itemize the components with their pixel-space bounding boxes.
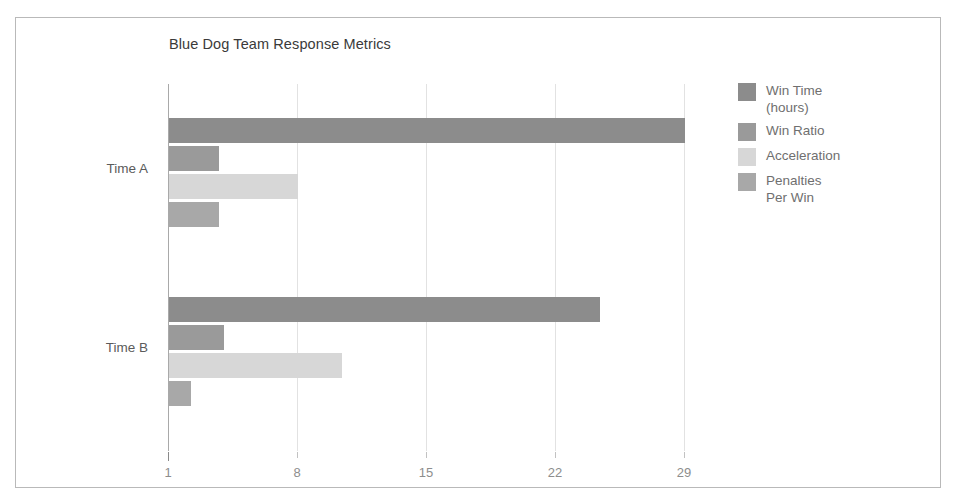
category-label-time-a: Time A	[48, 161, 148, 176]
bar-time-b-series-3	[169, 381, 191, 406]
bar-time-a-series-0	[169, 118, 685, 143]
bar-time-a-series-1	[169, 146, 219, 171]
bar-time-a-series-3	[169, 202, 219, 227]
x-tick-mark-22	[555, 452, 556, 458]
x-tick-label-15: 15	[419, 465, 433, 480]
x-tick-label-29: 29	[677, 465, 691, 480]
bar-time-b-series-2	[169, 353, 342, 378]
chart-frame: Blue Dog Team Response Metrics 18152229T…	[15, 17, 941, 488]
legend-label: Win Time (hours)	[766, 82, 822, 116]
x-tick-mark-29	[684, 452, 685, 458]
legend-swatch-icon	[738, 123, 756, 141]
legend-swatch-icon	[738, 173, 756, 191]
legend-item-3[interactable]: Penalties Per Win	[738, 172, 928, 206]
chart-legend: Win Time (hours)Win RatioAccelerationPen…	[738, 82, 928, 212]
category-label-time-b: Time B	[48, 340, 148, 355]
x-tick-label-8: 8	[293, 465, 300, 480]
legend-swatch-icon	[738, 83, 756, 101]
chart-title: Blue Dog Team Response Metrics	[169, 36, 391, 52]
x-tick-label-1: 1	[164, 465, 171, 480]
x-tick-mark-1	[168, 452, 169, 461]
bar-time-b-series-0	[169, 297, 600, 322]
legend-item-2[interactable]: Acceleration	[738, 147, 928, 166]
legend-label: Win Ratio	[766, 122, 825, 139]
bar-time-b-series-1	[169, 325, 224, 350]
x-tick-label-22: 22	[548, 465, 562, 480]
plot-area: 18152229Time ATime B	[168, 84, 740, 451]
legend-item-0[interactable]: Win Time (hours)	[738, 82, 928, 116]
x-tick-mark-8	[297, 452, 298, 458]
bar-time-a-series-2	[169, 174, 298, 199]
legend-label: Penalties Per Win	[766, 172, 822, 206]
legend-swatch-icon	[738, 148, 756, 166]
legend-item-1[interactable]: Win Ratio	[738, 122, 928, 141]
legend-label: Acceleration	[766, 147, 840, 164]
x-tick-mark-15	[426, 452, 427, 458]
